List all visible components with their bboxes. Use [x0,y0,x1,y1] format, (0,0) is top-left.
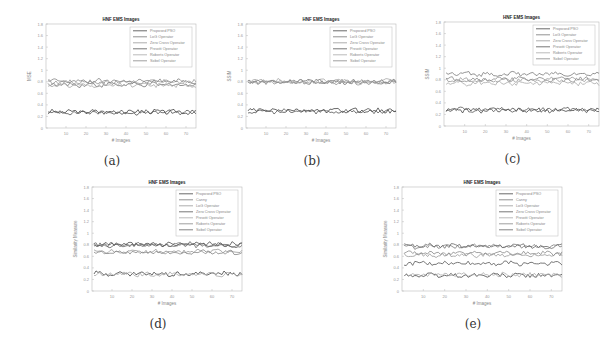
legend-entry: Prewitt Operator [553,45,581,49]
x-axis-label: # Images [112,138,131,143]
y-tick-label: 0.4 [435,100,441,105]
y-tick-label: 0.2 [393,277,399,282]
x-tick-label: 70 [586,129,591,134]
legend-entry: Canny [516,198,527,202]
y-tick-label: 0 [397,289,400,294]
x-tick-label: 60 [164,131,169,136]
y-tick-label: 0.2 [37,114,43,119]
y-tick-label: 1.6 [83,196,89,201]
legend-entry: Prewitt Operator [150,47,178,51]
y-tick-label: 1.6 [393,196,399,201]
chart-panel-d: HNF EMS Images00.20.40.60.811.21.41.61.8… [68,175,248,315]
x-tick-label: 10 [462,129,467,134]
y-axis-label: MSE [27,71,32,81]
legend-entry: Prewitt Operator [516,216,544,220]
x-axis-label: # Images [312,138,331,143]
x-tick-label: 70 [184,131,189,136]
y-tick-label: 0.6 [393,254,399,259]
x-tick-label: 30 [504,129,509,134]
y-tick-label: 1.8 [83,185,89,190]
x-axis-label: # Images [158,301,177,306]
y-tick-label: 0.2 [83,277,89,282]
x-tick-label: 60 [210,294,215,299]
y-tick-label: 0.4 [393,265,399,270]
y-tick-label: 1 [41,68,44,73]
x-tick-label: 20 [284,131,289,136]
y-tick-label: 0.6 [83,254,89,259]
y-tick-label: 1.8 [237,22,243,27]
x-tick-label: 50 [545,129,550,134]
y-tick-label: 1 [397,231,400,236]
line-chart-e: HNF EMS Images00.20.40.60.811.21.41.61.8… [378,175,568,315]
chart-title: HNF EMS Images [463,180,501,185]
legend-entry: Zero Cross Operator [196,210,232,214]
x-tick-label: 10 [264,131,269,136]
y-tick-label: 1.4 [37,45,43,50]
y-axis-label: SSIM [425,68,430,79]
x-tick-label: 50 [506,294,511,299]
y-tick-label: 0.8 [83,242,89,247]
legend-entry: Zero Cross Operator [150,41,186,45]
legend-entry: Zero Cross Operator [350,41,386,45]
y-tick-label: 1.8 [393,185,399,190]
x-axis-label: # Images [512,136,531,141]
y-tick-label: 1 [241,68,244,73]
legend-entry: Zero Cross Operator [553,39,589,43]
legend-entry: Prewitt Operator [196,216,224,220]
x-tick-label: 60 [364,131,369,136]
y-tick-label: 0.4 [37,102,43,107]
chart-panel-a: HNF EMS Images00.20.40.60.811.21.41.61.8… [22,12,202,152]
y-tick-label: 0 [439,124,442,129]
legend-entry: Proposed PSO [553,27,578,31]
y-axis-label: SSIM [227,70,232,81]
x-tick-label: 40 [124,131,129,136]
y-tick-label: 0.6 [37,91,43,96]
figure-caption: (b) [292,154,332,168]
y-tick-label: 0.8 [237,79,243,84]
chart-title: HNF EMS Images [148,180,186,185]
x-tick-label: 40 [324,131,329,136]
y-tick-label: 1.4 [83,208,89,213]
legend-entry: Roberts Operator [553,51,583,55]
y-tick-label: 1.8 [435,20,441,25]
x-tick-label: 10 [64,131,69,136]
legend-entry: Proposed PSO [196,192,221,196]
y-tick-label: 1.2 [37,56,43,61]
legend-entry: Roberts Operator [350,53,380,57]
x-tick-label: 20 [442,294,447,299]
y-tick-label: 1 [87,231,90,236]
y-tick-label: 0 [241,126,244,131]
chart-panel-b: HNF EMS Images00.20.40.60.811.21.41.61.8… [222,12,402,152]
x-tick-label: 40 [524,129,529,134]
y-tick-label: 1.4 [237,45,243,50]
legend-entry: Sobel Operator [516,228,542,232]
x-tick-label: 20 [84,131,89,136]
y-tick-label: 1 [439,66,442,71]
legend-entry: Proposed PSO [150,29,175,33]
y-tick-label: 0.8 [393,242,399,247]
x-tick-label: 10 [110,294,115,299]
y-tick-label: 0.6 [237,91,243,96]
y-tick-label: 1.4 [435,43,441,48]
x-tick-label: 30 [150,294,155,299]
x-tick-label: 10 [421,294,426,299]
figure-caption: (c) [493,152,533,166]
figure-caption: (e) [453,317,493,331]
x-tick-label: 70 [230,294,235,299]
legend-entry: Prewitt Operator [350,47,378,51]
x-tick-label: 20 [130,294,135,299]
y-tick-label: 1.6 [37,33,43,38]
chart-title: HNF EMS Images [503,15,541,20]
legend-entry: Proposed PSO [350,29,375,33]
legend-entry: Roberts Operator [196,222,226,226]
legend-entry: Proposed PSO [516,192,541,196]
legend-entry: Sobel Operator [350,59,376,63]
y-tick-label: 0 [87,289,90,294]
y-axis-label: Similarity Measure [383,220,388,258]
legend-entry: Sobel Operator [553,57,579,61]
legend-entry: LoG Operator [150,35,174,39]
y-tick-label: 0.4 [237,102,243,107]
x-tick-label: 20 [483,129,488,134]
y-tick-label: 1.2 [435,54,441,59]
x-tick-label: 50 [144,131,149,136]
